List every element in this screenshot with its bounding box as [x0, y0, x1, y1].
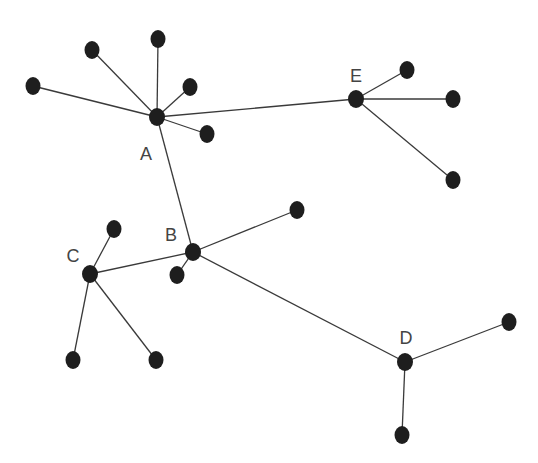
nodes-layer — [26, 30, 517, 444]
edge-D-d2 — [402, 362, 405, 435]
leaf-node-a5 — [200, 125, 215, 143]
leaf-node-b1 — [290, 201, 305, 219]
leaf-node-a2 — [85, 41, 100, 59]
leaf-node-c2 — [66, 351, 81, 369]
labels-layer: ABCDE — [67, 66, 413, 348]
edge-E-e1 — [356, 70, 407, 99]
edge-A-a3 — [157, 39, 158, 117]
hub-label-b: B — [165, 225, 177, 245]
hub-node-d — [397, 353, 413, 371]
hub-node-c — [82, 265, 98, 283]
leaf-node-d2 — [395, 426, 410, 444]
leaf-node-a3 — [151, 30, 166, 48]
leaf-node-c3 — [149, 351, 164, 369]
network-graph: ABCDE — [0, 0, 538, 463]
edge-D-d1 — [405, 322, 509, 362]
leaf-node-d1 — [502, 313, 517, 331]
leaf-node-c1 — [107, 220, 122, 238]
hub-label-c: C — [67, 246, 80, 266]
edge-A-a1 — [33, 86, 157, 117]
leaf-node-b2 — [170, 266, 185, 284]
edges-layer — [33, 39, 509, 435]
edge-C-c2 — [73, 274, 90, 360]
hub-node-e — [348, 90, 364, 108]
edge-B-b1 — [193, 210, 297, 252]
hub-label-d: D — [400, 328, 413, 348]
edge-C-c3 — [90, 274, 156, 360]
leaf-node-e3 — [446, 171, 461, 189]
edge-E-e3 — [356, 99, 453, 180]
edge-A-E — [157, 99, 356, 117]
hub-label-e: E — [350, 66, 362, 86]
hub-label-a: A — [140, 144, 152, 164]
hub-node-b — [185, 243, 201, 261]
edge-A-a2 — [92, 50, 157, 117]
leaf-node-e2 — [446, 90, 461, 108]
leaf-node-e1 — [400, 61, 415, 79]
edge-B-D — [193, 252, 405, 362]
leaf-node-a1 — [26, 77, 41, 95]
leaf-node-a4 — [183, 78, 198, 96]
hub-node-a — [149, 108, 165, 126]
